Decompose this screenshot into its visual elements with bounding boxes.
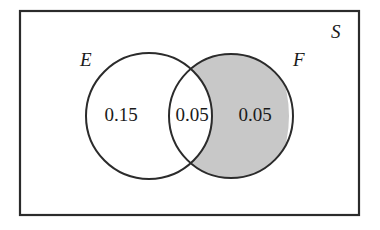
region-value-intersection: 0.05 (175, 104, 208, 125)
region-value-f-only: 0.05 (238, 104, 271, 125)
set-label-e: E (79, 49, 92, 70)
universe-label: S (331, 21, 341, 42)
venn-diagram-figure: S E F 0.15 0.05 0.05 (0, 0, 380, 230)
set-label-f: F (292, 49, 305, 70)
region-value-e-only: 0.15 (104, 104, 137, 125)
venn-diagram-canvas: S E F 0.15 0.05 0.05 (0, 0, 380, 230)
